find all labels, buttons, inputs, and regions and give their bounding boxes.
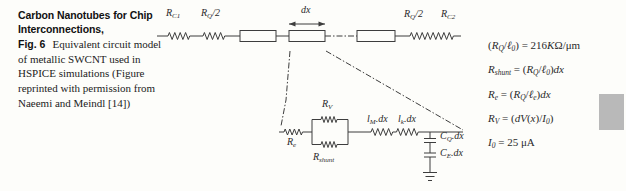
capacitor-ce [424, 153, 436, 157]
label-rc2: RC2 [441, 8, 455, 23]
resistor-rq2-left [203, 33, 225, 40]
resistor-rq2-right [410, 33, 432, 40]
label-rshunt: Rshunt [313, 151, 334, 166]
label-lk: lk.dx [398, 113, 416, 128]
dashed-projection-left [281, 51, 290, 126]
label-rq2-left: RQ/2 [201, 7, 220, 22]
element-box-right [357, 31, 395, 42]
inductor-lm [371, 129, 393, 136]
resistor-rc2 [432, 33, 454, 40]
label-rq2-right: RQ/2 [404, 8, 423, 23]
element-box-dx [289, 31, 325, 42]
element-box-left [240, 31, 276, 42]
ground-symbol [423, 173, 437, 181]
inductor-lk [397, 129, 419, 136]
resistor-rshunt [321, 142, 337, 148]
label-lm: lM.dx [367, 113, 388, 128]
equation-rshunt: Rshunt = (RQ/ℓ0)dx [488, 63, 564, 77]
resistor-rv [321, 117, 337, 123]
equation-i0: I0 = 25 μA [488, 136, 535, 150]
label-re: Re [287, 136, 296, 151]
scanned-page: Carbon Nanotubes for Chip Interconnectio… [0, 0, 626, 191]
resistor-re [284, 129, 302, 135]
main-line [157, 31, 461, 42]
dx-arrow [289, 21, 325, 26]
equation-rq-per-length: (RQ/ℓ0) = 216KΩ/μm [488, 39, 580, 53]
capacitor-cq [424, 139, 436, 143]
label-rv: RV [322, 98, 332, 113]
resistor-rc1 [168, 33, 190, 40]
equation-rv: RV = (dV(x)/I0) [488, 112, 553, 126]
label-cq: CQ.dx [440, 130, 464, 145]
equation-re: Re = (RQ/ℓe)dx [488, 88, 551, 102]
label-ce: CE.dx [440, 147, 463, 162]
scrollbar-thumb[interactable] [599, 94, 624, 130]
label-rc1: RC1 [166, 7, 180, 22]
dashed-projection-right [326, 51, 463, 130]
label-dx: dx [301, 4, 310, 19]
